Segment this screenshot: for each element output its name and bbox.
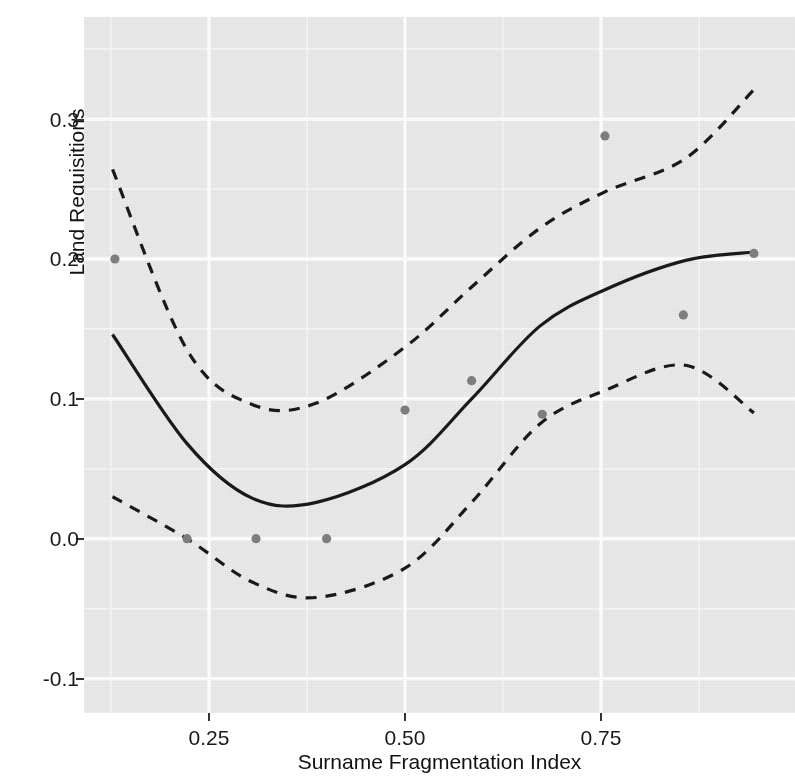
data-point [110, 254, 119, 263]
x-tick-mark-0.75 [600, 713, 602, 721]
data-point [749, 249, 758, 258]
x-tick-mark-0.25 [208, 713, 210, 721]
x-axis-title: Surname Fragmentation Index [84, 750, 795, 774]
data-point [600, 131, 609, 140]
x-tick-mark-0.50 [404, 713, 406, 721]
data-point [679, 310, 688, 319]
plot-panel [84, 17, 795, 713]
data-point [322, 534, 331, 543]
chart-figure: Land Requisitions 0.3 0.2 0.1 0.0 -0.1 0… [0, 0, 795, 776]
x-tick-label-0.25: 0.25 [189, 726, 230, 750]
data-point [538, 410, 547, 419]
x-tick-label-0.50: 0.50 [385, 726, 426, 750]
y-tick-label-0.0: 0.0 [50, 527, 79, 551]
y-tick-label-0.1: 0.1 [50, 387, 79, 411]
data-point [400, 405, 409, 414]
data-point [467, 376, 476, 385]
y-tick-label-0.2: 0.2 [50, 247, 79, 271]
y-tick-label-0.3: 0.3 [50, 108, 79, 132]
data-point [182, 534, 191, 543]
x-tick-label-0.75: 0.75 [581, 726, 622, 750]
data-point [251, 534, 260, 543]
plot-canvas [84, 17, 795, 713]
y-tick-label--0.1: -0.1 [43, 667, 79, 691]
